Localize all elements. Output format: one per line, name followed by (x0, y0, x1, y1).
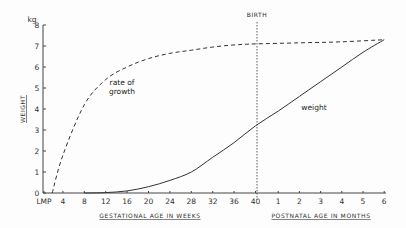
birth-label: BIRTH (247, 11, 267, 18)
growth-chart: 012345678 LMP481216202428323640123456 BI… (0, 0, 406, 228)
y-unit-label: kg (27, 15, 36, 24)
x-tick-label: 36 (229, 197, 239, 206)
rate-label-line2: growth (109, 87, 135, 96)
rate-of-growth-curve (52, 40, 384, 193)
x-tick-label: 1 (276, 197, 281, 206)
x-tick-label: 20 (144, 197, 154, 206)
x-tick-label: 2 (297, 197, 302, 206)
x-tick-label: 4 (339, 197, 344, 206)
y-tick-label: 7 (35, 42, 40, 51)
y-axis-title: WEIGHT (19, 95, 26, 123)
x-axis-title-postnatal: POSTNATAL AGE IN MONTHS (271, 212, 370, 219)
chart-canvas: 012345678 LMP481216202428323640123456 BI… (0, 0, 406, 228)
x-tick-label: 32 (208, 197, 218, 206)
y-ticks: 012345678 (35, 21, 46, 198)
x-tick-label: 5 (361, 197, 366, 206)
y-tick-label: 1 (35, 168, 40, 177)
x-tick-label: 6 (382, 197, 387, 206)
rate-label-line1: rate of (110, 78, 135, 87)
x-tick-label: 24 (165, 197, 175, 206)
x-tick-label: LMP (36, 197, 52, 206)
x-axis-title-gestational: GESTATIONAL AGE IN WEEKS (99, 212, 200, 219)
y-tick-label: 6 (35, 63, 40, 72)
x-tick-label: 3 (318, 197, 323, 206)
x-tick-label: 28 (187, 197, 197, 206)
y-tick-label: 2 (35, 147, 40, 156)
x-tick-label: 8 (82, 197, 87, 206)
y-tick-label: 5 (35, 84, 40, 93)
x-tick-label: 16 (122, 197, 132, 206)
x-tick-label: 12 (101, 197, 111, 206)
x-tick-label: 40 (251, 197, 261, 206)
x-tick-label: 4 (61, 197, 66, 206)
weight-curve (84, 40, 384, 193)
y-tick-label: 4 (35, 105, 40, 114)
y-tick-label: 3 (35, 126, 40, 135)
weight-label: weight (301, 103, 326, 112)
